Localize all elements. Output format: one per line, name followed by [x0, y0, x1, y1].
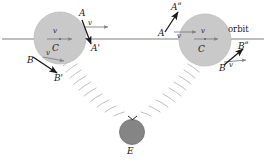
left-body-center-velocity-label: v [53, 28, 57, 35]
left-body-A-velocity-label: v [88, 20, 92, 27]
diagram-svg [0, 0, 266, 166]
orbit-label: orbit [228, 25, 249, 34]
right-body-point-B-label: B [219, 64, 226, 73]
right-body-center-label: C [198, 45, 205, 54]
earth-label: E [127, 147, 134, 156]
left-body-center-label: C [52, 44, 59, 53]
tidal-rays-left [63, 59, 124, 116]
right-body-center-velocity-label: v [201, 28, 205, 35]
left-body-point-B-label: B [27, 56, 34, 65]
left-body-B-velocity-label: v [46, 50, 50, 57]
right-body-point-A-label: A [158, 29, 165, 38]
right-body-A-velocity-label: v [177, 33, 181, 40]
tidal-rays-right [141, 59, 202, 116]
right-body-B-velocity-label: v [229, 62, 233, 69]
left-body-point-B-prime-label: B' [54, 74, 63, 83]
right-body-point-A-dprime-label: Aʺ [171, 3, 182, 12]
right-A-resultant-arrow [165, 12, 178, 32]
right-body-point-B-dprime-label: Bʺ [238, 42, 249, 51]
left-body-point-A-prime-label: A' [91, 44, 100, 53]
earth-circle [120, 120, 145, 145]
figure-canvas: orbit C A A' B B' v v v C A Aʺ B Bʺ v v … [0, 0, 266, 166]
left-body-point-A-label: A [79, 9, 86, 18]
